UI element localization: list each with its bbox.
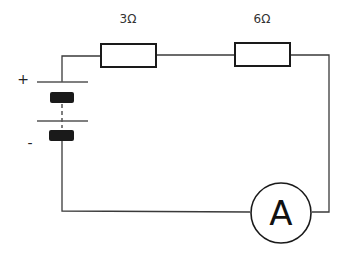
battery-cell-1 bbox=[50, 92, 74, 103]
resistor-2-body bbox=[235, 43, 290, 66]
battery-cell-2 bbox=[49, 130, 74, 141]
wire-ammeter-to-battery bbox=[62, 140, 250, 212]
resistor-1-label: 3Ω bbox=[120, 12, 137, 26]
wire-battery-to-resistor-1 bbox=[62, 56, 101, 82]
battery-positive-sign: + bbox=[17, 71, 29, 87]
battery: + - bbox=[17, 71, 88, 151]
ammeter: A bbox=[251, 183, 311, 243]
resistor-2-label: 6Ω bbox=[254, 12, 271, 26]
circuit-diagram: 3Ω 6Ω + - A bbox=[0, 0, 347, 257]
resistor-1: 3Ω bbox=[101, 12, 156, 67]
resistor-1-body bbox=[101, 44, 156, 67]
battery-negative-sign: - bbox=[27, 135, 32, 151]
resistor-2: 6Ω bbox=[235, 12, 290, 66]
ammeter-label: A bbox=[269, 193, 292, 233]
